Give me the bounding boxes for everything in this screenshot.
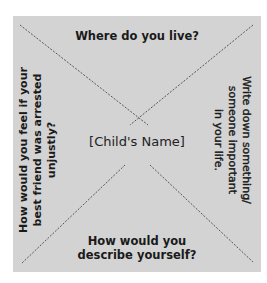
question-left-line: unjustly? <box>45 67 59 233</box>
question-left-line: How would you feel if your <box>17 67 31 233</box>
child-name-label: [Child's Name] <box>13 134 261 150</box>
question-top: Where do you live? <box>13 29 261 43</box>
question-bottom-line: describe yourself? <box>13 248 261 262</box>
question-bottom-line: How would you <box>13 234 261 248</box>
question-left-line: best friend was arrested <box>31 67 45 233</box>
question-bottom: How would you describe yourself? <box>13 234 261 263</box>
question-top-line: Where do you live? <box>13 29 261 43</box>
worksheet-canvas: Where do you live? How would you feel if… <box>0 0 267 283</box>
question-left: How would you feel if your best friend w… <box>17 67 58 233</box>
